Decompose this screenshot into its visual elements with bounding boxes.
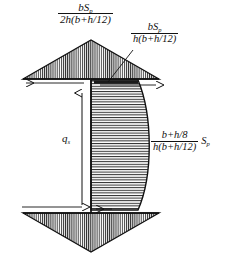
fraction-denominator: h(b+h/12) [131, 34, 178, 45]
bottom-flange-triangle-outline [23, 213, 159, 252]
web-distribution-outline [91, 80, 149, 210]
fraction-right: b+h/8 h(b+h/12) [151, 130, 198, 153]
numerator-text: bS [78, 1, 89, 13]
web-junction-band [94, 81, 138, 84]
bottom-flange-triangle [23, 213, 159, 252]
fraction-denominator: 2h(b+h/12) [58, 14, 113, 25]
top-flange-triangle-outline [23, 40, 159, 79]
shear-flow-symbol-text: q [62, 132, 68, 144]
web-parabolic-distribution [91, 80, 149, 213]
web-max-shear-formula: b+h/8 h(b+h/12) Sp [151, 130, 210, 153]
fraction-denominator: h(b+h/12) [151, 142, 198, 153]
shear-flow-figure: bSp 2h(b+h/12) bSp h(b+h/12) b+h/8 h(b+h… [0, 0, 238, 261]
fraction-trailing-symbol: Sp [198, 136, 210, 147]
numerator-text: bS [148, 21, 159, 32]
top-flange-triangle [23, 40, 159, 79]
shear-flow-symbol-subscript: s [68, 138, 71, 145]
fraction-top-left: bSp 2h(b+h/12) [58, 2, 113, 26]
numerator-subscript: p [89, 7, 92, 14]
numerator-subscript: p [158, 26, 161, 33]
trailing-symbol-subscript: p [207, 140, 210, 147]
top-flange-peak-shear-formula: bSp 2h(b+h/12) [58, 2, 113, 26]
trailing-symbol-text: S [201, 135, 206, 146]
fraction-top-right: bSp h(b+h/12) [131, 22, 178, 45]
shear-flow-symbol: qs [62, 133, 70, 144]
web-junction-shear-formula: bSp h(b+h/12) [131, 22, 178, 45]
